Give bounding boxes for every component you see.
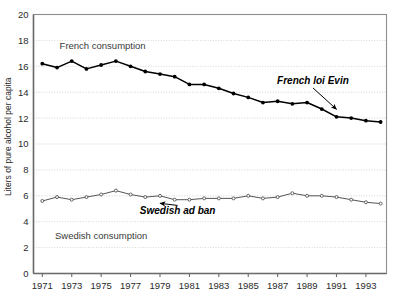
x-tick-label: 1981 [179, 280, 200, 291]
data-point [276, 196, 279, 199]
x-tick-label: 1975 [91, 280, 112, 291]
data-point [306, 194, 309, 197]
data-point [217, 86, 221, 90]
y-axis-title: Liters of pure alcohol per capita [3, 77, 13, 196]
data-point [247, 194, 250, 197]
annotation-label: French loi Evin [277, 75, 349, 86]
data-point [320, 194, 323, 197]
data-point [232, 92, 236, 96]
data-point [114, 59, 118, 63]
data-point [232, 197, 235, 200]
data-point [335, 115, 339, 119]
data-point [85, 196, 88, 199]
chart-canvas: 02468101214161820 1971197319751977197919… [0, 0, 399, 308]
y-tick-label: 2 [23, 242, 28, 253]
x-tick-label: 1983 [208, 280, 229, 291]
y-tick-label: 4 [23, 216, 28, 227]
x-tick-label: 1977 [120, 280, 141, 291]
data-point [320, 107, 324, 111]
data-point [55, 66, 59, 70]
data-point [261, 101, 265, 105]
x-tick-label: 1979 [149, 280, 170, 291]
data-point [335, 196, 338, 199]
x-tick-label: 1985 [238, 280, 259, 291]
data-point [202, 83, 206, 87]
data-point [173, 198, 176, 201]
data-point [143, 70, 147, 74]
y-tick-label: 6 [23, 190, 28, 201]
y-tick-label: 16 [18, 61, 29, 72]
data-point [99, 63, 103, 67]
alcohol-consumption-chart: 02468101214161820 1971197319751977197919… [0, 0, 399, 308]
series-label: Swedish consumption [55, 230, 147, 241]
y-tick-label: 20 [18, 9, 29, 20]
y-tick-label: 10 [18, 138, 29, 149]
data-point [70, 198, 73, 201]
data-point [203, 197, 206, 200]
data-point [350, 198, 353, 201]
data-point [144, 196, 147, 199]
data-point [158, 194, 161, 197]
data-point [129, 193, 132, 196]
data-point [129, 64, 133, 68]
data-point [291, 192, 294, 195]
data-point [305, 101, 309, 105]
data-point [188, 83, 192, 87]
y-tick-label: 14 [18, 87, 29, 98]
annotation-label: Swedish ad ban [140, 205, 216, 216]
data-point [114, 189, 117, 192]
data-point [85, 67, 89, 71]
data-point [364, 201, 367, 204]
x-tick-label: 1973 [61, 280, 82, 291]
x-tick-label: 1989 [297, 280, 318, 291]
data-point [40, 62, 44, 66]
data-point [158, 72, 162, 76]
data-point [173, 75, 177, 79]
x-tick-label: 1987 [267, 280, 288, 291]
data-point [56, 196, 59, 199]
data-point [290, 102, 294, 106]
series-label: French consumption [60, 40, 146, 51]
y-tick-label: 12 [18, 113, 29, 124]
data-point [379, 120, 383, 124]
data-point [188, 198, 191, 201]
y-tick-label: 0 [23, 268, 28, 279]
y-tick-label: 8 [23, 164, 28, 175]
x-tick-label: 1991 [326, 280, 347, 291]
data-point [217, 197, 220, 200]
data-point [379, 202, 382, 205]
data-point [349, 116, 353, 120]
data-point [70, 59, 74, 63]
data-point [246, 95, 250, 99]
data-point [100, 193, 103, 196]
y-tick-label: 18 [18, 35, 29, 46]
data-point [261, 197, 264, 200]
x-tick-label: 1971 [32, 280, 53, 291]
x-tick-label: 1993 [355, 280, 376, 291]
data-point [364, 119, 368, 123]
data-point [276, 99, 280, 103]
data-point [41, 199, 44, 202]
